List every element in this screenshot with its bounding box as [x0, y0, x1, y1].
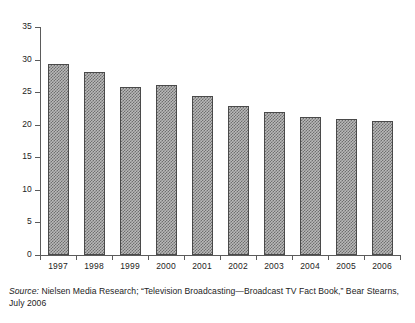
caption-source-word: Source: [9, 286, 39, 296]
y-tick-label: 30 [22, 54, 32, 65]
x-tick [76, 255, 77, 260]
x-tick [184, 255, 185, 260]
x-axis-label: 2002 [220, 261, 256, 272]
y-tick-label: 5 [27, 216, 32, 227]
y-tick-label: 0 [27, 249, 32, 260]
x-axis-label: 2005 [328, 261, 364, 272]
x-axis-label: 1999 [112, 261, 148, 272]
x-tick [112, 255, 113, 260]
caption-text: Nielsen Media Research; “Television Broa… [9, 286, 399, 308]
bar [192, 96, 213, 255]
x-tick [328, 255, 329, 260]
x-axis-label: 2000 [148, 261, 184, 272]
bar [372, 121, 393, 255]
bar [264, 112, 285, 255]
bar [228, 106, 249, 255]
source-caption: Source: Nielsen Media Research; “Televis… [9, 286, 409, 309]
bar [48, 64, 69, 255]
x-axis-label: 2006 [364, 261, 400, 272]
x-axis-label: 1997 [40, 261, 76, 272]
x-tick [364, 255, 365, 260]
x-axis-labels: 1997199819992000200120022003200420052006 [40, 261, 400, 275]
y-tick-label: 35 [22, 21, 32, 32]
y-tick-label: 15 [22, 151, 32, 162]
y-tick-label: 25 [22, 86, 32, 97]
plot-area: 05101520253035 [40, 27, 400, 255]
bar [336, 119, 357, 255]
bar [300, 117, 321, 255]
bar [156, 85, 177, 255]
x-tick [40, 255, 41, 260]
bar [120, 87, 141, 255]
bar-series [40, 27, 400, 255]
x-axis-label: 2004 [292, 261, 328, 272]
x-axis-label: 2003 [256, 261, 292, 272]
y-tick-label: 10 [22, 184, 32, 195]
figure: 05101520253035 1997199819992000200120022… [0, 0, 415, 323]
x-tick [256, 255, 257, 260]
x-tick [220, 255, 221, 260]
bar [84, 72, 105, 255]
x-tick [292, 255, 293, 260]
x-axis-label: 1998 [76, 261, 112, 272]
y-tick-label: 20 [22, 119, 32, 130]
x-tick [400, 255, 401, 260]
x-tick [148, 255, 149, 260]
x-axis-label: 2001 [184, 261, 220, 272]
